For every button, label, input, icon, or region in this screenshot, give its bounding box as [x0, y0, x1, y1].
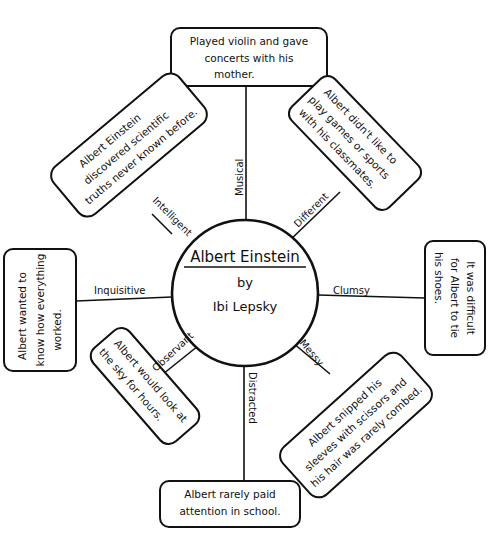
character-web-diagram: Albert Einstein by Ibi Lepsky Played vio… [0, 0, 498, 544]
center-author: Ibi Lepsky [213, 299, 278, 314]
center-by: by [237, 275, 253, 290]
trait-distracted: Distracted [247, 372, 258, 424]
spoke-inquisitive [76, 297, 172, 301]
node-clumsy: It was difficult for Albert to tie his s… [425, 241, 485, 355]
svg-text:Albert rarely paid: Albert rarely paid [184, 488, 275, 500]
node-inquisitive: Albert wanted to know how everything wor… [4, 249, 76, 371]
svg-text:Albert wanted to: Albert wanted to [16, 272, 28, 360]
svg-text:concerts with his: concerts with his [205, 52, 294, 64]
svg-text:his shoes.: his shoes. [433, 252, 445, 304]
svg-text:know how everything: know how everything [34, 254, 46, 367]
node-messy: Albert snipped his sleeves with scissors… [275, 348, 437, 503]
trait-musical: Musical [234, 159, 245, 196]
svg-text:mother.: mother. [214, 68, 255, 80]
trait-intelligent: Intelligent [151, 195, 195, 239]
trait-messy-label: Messy [297, 337, 325, 368]
node-different: Albert didn't like to play games or spor… [285, 72, 425, 214]
node-intelligent: Albert Einstein discovered scientific tr… [46, 69, 211, 222]
trait-clumsy: Clumsy [333, 285, 370, 296]
svg-text:Played violin and gave: Played violin and gave [190, 35, 309, 47]
node-musical: Played violin and gave concerts with his… [171, 28, 327, 86]
svg-text:for Albert to tie: for Albert to tie [449, 258, 461, 338]
trait-inquisitive: Inquisitive [94, 285, 146, 296]
center-circle [172, 220, 318, 366]
center-title: Albert Einstein [190, 248, 300, 266]
node-distracted: Albert rarely paid attention in school. [160, 481, 300, 527]
trait-different: Different [292, 191, 331, 230]
svg-text:attention in school.: attention in school. [179, 505, 280, 517]
svg-text:worked.: worked. [51, 309, 63, 351]
svg-text:It was difficult: It was difficult [465, 261, 477, 335]
